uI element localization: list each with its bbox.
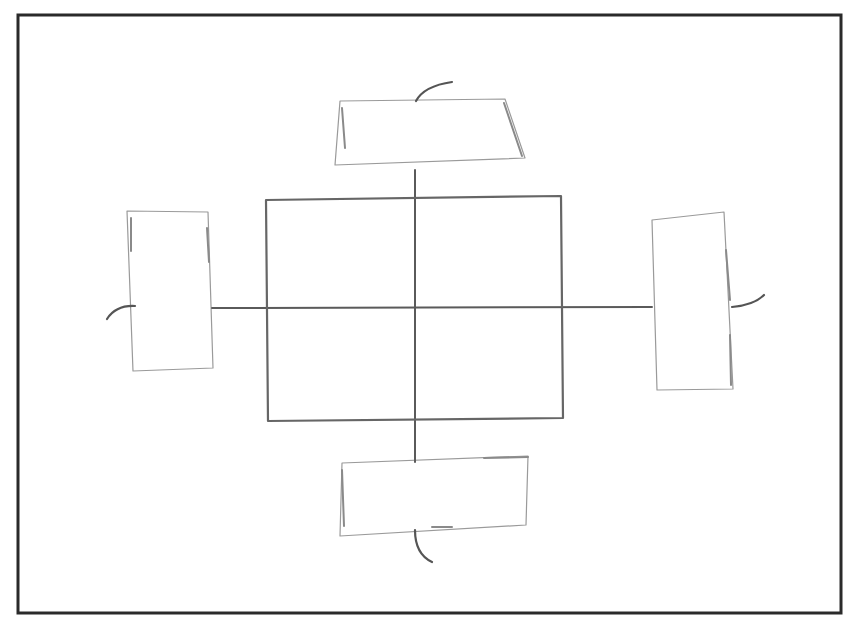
sketch-stroke: [504, 103, 522, 156]
satellite-box-right: [652, 212, 764, 390]
horizontal-axis-line: [212, 307, 652, 308]
sketch-stroke: [342, 470, 344, 526]
outer-frame: [18, 15, 841, 613]
sketch-stroke: [484, 457, 528, 458]
satellite-box-left: [107, 211, 213, 371]
hook-curve-top: [416, 82, 452, 101]
diagram-svg: [0, 0, 854, 618]
satellite-outline: [335, 99, 525, 165]
sketch-stroke: [342, 108, 345, 148]
satellite-boxes: [107, 82, 764, 562]
sketch-canvas: [0, 0, 854, 618]
sketch-stroke: [730, 335, 731, 385]
satellite-outline: [340, 456, 528, 536]
satellite-box-top: [335, 82, 525, 165]
satellite-outline: [127, 211, 213, 371]
satellite-outline: [652, 212, 733, 390]
hook-curve-bottom: [415, 530, 432, 562]
satellite-box-bottom: [340, 456, 528, 562]
hook-curve-right: [732, 295, 764, 307]
